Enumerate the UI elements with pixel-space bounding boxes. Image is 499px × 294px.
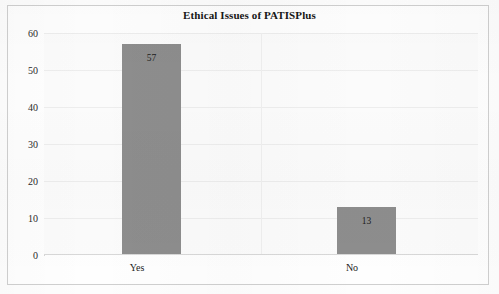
bar-value-label-yes: 57: [122, 53, 181, 63]
y-tick-label: 30: [4, 140, 38, 150]
chart-figure: Ethical Issues of PATISPlus 60 50 40 30 …: [0, 0, 499, 294]
y-tick-label: 10: [4, 214, 38, 224]
bar-value-label-no: 13: [337, 216, 396, 226]
y-tick-label: 20: [4, 177, 38, 187]
y-tick-label: 60: [4, 29, 38, 39]
y-tick-label: 40: [4, 103, 38, 113]
x-axis-line: [44, 254, 478, 255]
x-category-label-no: No: [307, 262, 397, 273]
y-tick-label: 50: [4, 66, 38, 76]
chart-title: Ethical Issues of PATISPlus: [0, 9, 499, 21]
bar-yes[interactable]: 57: [122, 44, 181, 255]
x-category-label-yes: Yes: [92, 262, 182, 273]
plot-area: 57 13: [44, 33, 478, 255]
y-tick-label: 0: [4, 251, 38, 261]
bar-no[interactable]: 13: [337, 207, 396, 255]
y-axis-tick-labels: 60 50 40 30 20 10 0: [0, 33, 38, 255]
category-divider: [261, 33, 262, 255]
